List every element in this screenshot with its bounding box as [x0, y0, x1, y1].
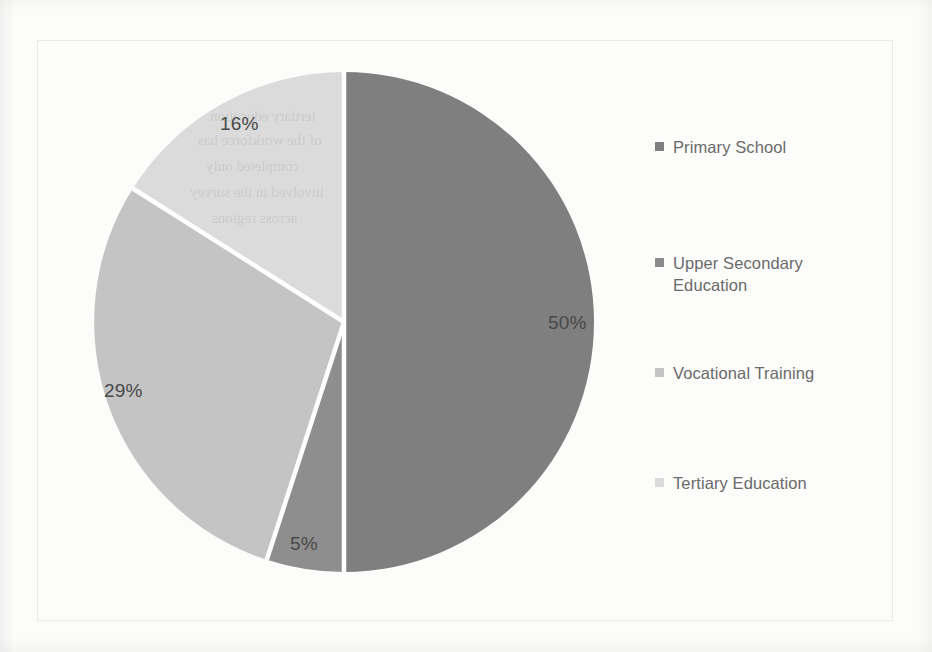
- pie-label-upper-secondary-education: 29%: [104, 380, 143, 402]
- legend-item-primary-school[interactable]: Primary School: [655, 136, 880, 158]
- legend-swatch-icon: [655, 142, 664, 151]
- legend-item-vocational-training[interactable]: Vocational Training: [655, 362, 880, 384]
- legend-swatch-icon: [655, 478, 664, 487]
- pie-label-tertiary-education: 16%: [220, 113, 259, 135]
- legend-item-tertiary-education[interactable]: Tertiary Education: [655, 472, 880, 494]
- pie-label-vocational-training: 5%: [290, 533, 318, 555]
- legend-item-label: Vocational Training: [673, 362, 814, 384]
- legend-swatch-icon: [655, 368, 664, 377]
- legend-item-label: Upper Secondary Education: [673, 252, 880, 296]
- pie-label-primary-school: 50%: [548, 312, 587, 334]
- pie-chart: [0, 0, 932, 652]
- legend-item-label: Tertiary Education: [673, 472, 807, 494]
- legend-item-label: Primary School: [673, 136, 786, 158]
- legend-swatch-icon: [655, 258, 664, 267]
- legend-item-upper-secondary-education[interactable]: Upper Secondary Education: [655, 252, 880, 296]
